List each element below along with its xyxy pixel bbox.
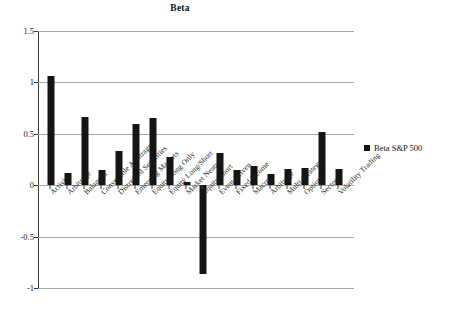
x-axis-labels-group: ActivistArbitrageBalancedConvertible Arb… <box>38 188 368 306</box>
beta-bar-chart: Beta 1.510.50-0.5-1 ActivistArbitrageBal… <box>0 0 449 310</box>
chart-legend: Beta S&P 500 <box>364 143 422 153</box>
legend-label: Beta S&P 500 <box>374 143 422 153</box>
y-tick-mark <box>34 82 38 83</box>
legend-swatch-icon <box>364 145 370 151</box>
y-tick-mark <box>34 134 38 135</box>
bar[interactable] <box>48 76 55 185</box>
y-tick-mark <box>34 31 38 32</box>
y-tick-mark <box>34 185 38 186</box>
chart-title: Beta <box>0 3 360 13</box>
